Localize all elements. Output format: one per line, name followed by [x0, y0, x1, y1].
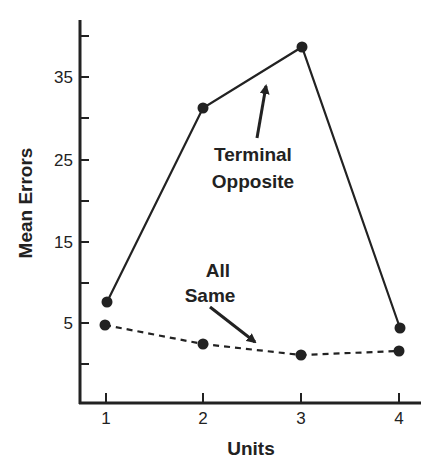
y-tick-label-5: 5: [64, 314, 73, 333]
annotation-opposite-label: Opposite: [212, 171, 294, 192]
arrow-terminal-opposite: [257, 86, 266, 138]
all-same-point-1: [100, 320, 111, 331]
y-tick-label-15: 15: [54, 233, 73, 252]
x-tick-label-1: 1: [101, 409, 110, 428]
annotation-terminal-label: Terminal: [214, 144, 292, 165]
x-tick-label-2: 2: [198, 409, 207, 428]
y-tick-label-35: 35: [54, 68, 73, 87]
x-axis-title: Units: [227, 438, 275, 459]
terminal-opposite-point-4: [395, 323, 406, 334]
x-tick-label-3: 3: [296, 409, 305, 428]
x-tick-label-4: 4: [394, 409, 403, 428]
y-axis-title: Mean Errors: [15, 148, 36, 259]
x-tick-labels: 1 2 3 4: [101, 409, 403, 428]
annotation-all-label: All: [206, 260, 230, 281]
axes: [79, 20, 421, 404]
terminal-opposite-point-3: [297, 42, 308, 53]
annotation-terminal-opposite: Terminal Opposite: [212, 86, 294, 192]
annotation-all-same: All Same: [185, 260, 255, 342]
all-same-point-2: [198, 339, 209, 350]
y-tick-labels: 35 25 15 5: [54, 68, 73, 333]
terminal-opposite-point-1: [102, 297, 113, 308]
all-same-point-4: [394, 346, 405, 357]
terminal-opposite-point-2: [198, 103, 209, 114]
y-tick-label-25: 25: [54, 151, 73, 170]
annotation-same-label: Same: [185, 285, 236, 306]
all-same-point-3: [296, 350, 307, 361]
line-chart: 35 25 15 5 1 2 3 4 Units Mean Errors: [0, 0, 436, 468]
arrow-all-same: [210, 307, 255, 342]
